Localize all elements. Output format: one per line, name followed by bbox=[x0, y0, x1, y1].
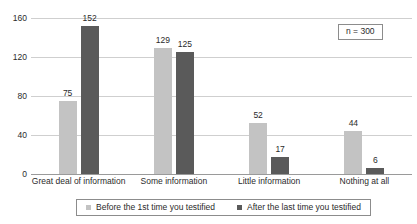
bar-series0[interactable]: 129 bbox=[154, 48, 172, 174]
y-tick-label: 120 bbox=[0, 53, 27, 62]
y-tick-label: 40 bbox=[0, 131, 27, 140]
legend-label: After the last time you testified bbox=[247, 203, 361, 212]
bar-group: 75 152 bbox=[31, 18, 126, 174]
bar-value-label: 6 bbox=[373, 156, 378, 165]
bar-chart: 160 120 80 40 0 75 152 129 125 bbox=[0, 0, 417, 224]
bar-value-label: 52 bbox=[253, 111, 262, 120]
legend-swatch-icon bbox=[86, 205, 91, 210]
x-axis-labels: Great deal of information Some informati… bbox=[31, 177, 412, 186]
bar-value-label: 75 bbox=[63, 89, 72, 98]
x-category-label: Nothing at all bbox=[317, 177, 412, 186]
legend: Before the 1st time you testified After … bbox=[76, 199, 371, 216]
bar-value-label: 125 bbox=[178, 40, 192, 49]
x-category-label: Little information bbox=[222, 177, 317, 186]
legend-swatch-icon bbox=[237, 205, 242, 210]
x-axis-line bbox=[31, 174, 412, 175]
sample-size-annotation: n = 300 bbox=[338, 24, 383, 40]
x-category-label: Some information bbox=[126, 177, 221, 186]
bar-series0[interactable]: 75 bbox=[59, 101, 77, 174]
bar-value-label: 152 bbox=[83, 14, 97, 23]
bar-group: 129 125 bbox=[126, 18, 221, 174]
bar-value-label: 129 bbox=[156, 36, 170, 45]
bar-series0[interactable]: 52 bbox=[249, 123, 267, 174]
bar-group: 52 17 bbox=[222, 18, 317, 174]
bar-series0[interactable]: 44 bbox=[344, 131, 362, 174]
legend-item-series1[interactable]: After the last time you testified bbox=[237, 203, 361, 212]
y-tick-label: 80 bbox=[0, 92, 27, 101]
bar-group: 44 6 bbox=[317, 18, 412, 174]
legend-label: Before the 1st time you testified bbox=[96, 203, 215, 212]
bar-series1[interactable]: 17 bbox=[271, 157, 289, 174]
x-category-label: Great deal of information bbox=[31, 177, 126, 186]
bar-series1[interactable]: 6 bbox=[366, 168, 384, 174]
bar-groups: 75 152 129 125 52 bbox=[31, 18, 412, 174]
bar-value-label: 17 bbox=[275, 145, 284, 154]
y-tick-label: 0 bbox=[0, 170, 27, 179]
legend-item-series0[interactable]: Before the 1st time you testified bbox=[86, 203, 215, 212]
bar-series1[interactable]: 125 bbox=[176, 52, 194, 174]
bar-value-label: 44 bbox=[349, 119, 358, 128]
bar-series1[interactable]: 152 bbox=[81, 26, 99, 174]
y-tick-label: 160 bbox=[0, 14, 27, 23]
